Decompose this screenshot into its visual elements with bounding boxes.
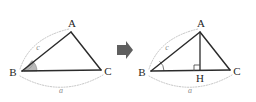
side-label-c-left: c bbox=[36, 43, 40, 52]
side-label-a-right: a bbox=[188, 86, 192, 95]
angle-b-filled-left bbox=[24, 61, 37, 71]
vertex-label-b-left: B bbox=[9, 66, 16, 78]
side-ac-right bbox=[200, 32, 230, 70]
left-panel-triangle-abc-plain: A B C c a bbox=[9, 17, 111, 95]
measure-arc-c-left bbox=[20, 29, 69, 69]
side-bc-right bbox=[151, 70, 230, 71]
vertex-label-h-right: H bbox=[196, 72, 204, 84]
side-ac-left bbox=[71, 32, 101, 70]
side-label-c-right: c bbox=[165, 43, 169, 52]
vertex-label-a-right: A bbox=[197, 17, 205, 29]
right-arrow-icon bbox=[117, 41, 133, 59]
figure-canvas: A B C c a A bbox=[0, 0, 256, 102]
side-bc-left bbox=[22, 70, 101, 71]
geometry-figure: A B C c a A bbox=[0, 0, 256, 102]
vertex-label-b-right: B bbox=[138, 66, 145, 78]
vertex-label-c-right: C bbox=[233, 65, 240, 77]
vertex-label-c-left: C bbox=[104, 65, 111, 77]
right-panel-triangle-abc-with-altitude: A B C H c a bbox=[138, 17, 240, 95]
vertex-label-a-left: A bbox=[68, 17, 76, 29]
measure-arc-c-right bbox=[149, 29, 198, 69]
transform-arrow-group bbox=[117, 41, 133, 59]
side-label-a-left: a bbox=[59, 86, 63, 95]
